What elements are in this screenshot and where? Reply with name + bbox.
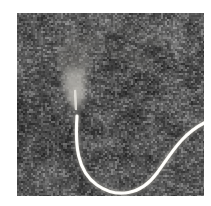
figure-root [0,0,211,206]
speckle-texture-canvas [17,13,204,196]
ultrasound-scan-frame [17,13,204,196]
